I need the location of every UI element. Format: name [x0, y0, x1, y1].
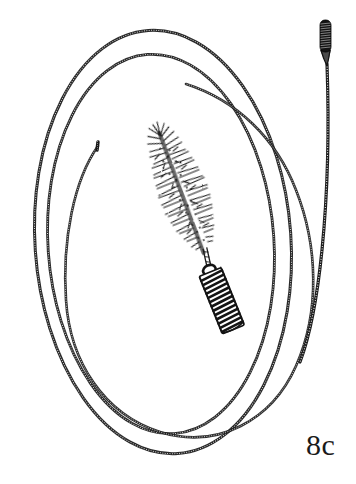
figure-plate: 8c [0, 0, 356, 484]
illustration-canvas [0, 0, 356, 484]
probe-spring-tip [320, 20, 331, 52]
cable-free-end [97, 141, 98, 151]
figure-background [0, 0, 356, 484]
plate-label: 8c [306, 430, 335, 460]
